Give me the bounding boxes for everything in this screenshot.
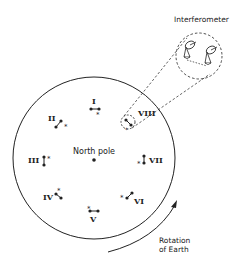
interferometer-magnified-circle <box>176 33 222 79</box>
station-iii: III * <box>28 155 51 167</box>
svg-text:*: * <box>125 126 128 133</box>
svg-text:IV: IV <box>43 192 54 202</box>
earth-rotation-interferometer-diagram: North pole Interferometer I * II * III <box>0 0 240 269</box>
interferometer-baseline <box>187 60 207 66</box>
station-vii: * VII <box>137 154 163 168</box>
svg-text:VIII: VIII <box>137 108 156 118</box>
antenna-dish-icon <box>184 39 196 58</box>
interferometer-title: Interferometer <box>174 15 230 24</box>
station-iv: IV * <box>43 187 63 202</box>
svg-text:VI: VI <box>133 196 144 206</box>
svg-text:I: I <box>92 96 96 106</box>
antenna-dish-icon <box>205 44 217 64</box>
station-i: I * <box>89 96 100 119</box>
svg-text:VII: VII <box>148 155 163 165</box>
magnifier-line-bottom <box>132 74 210 128</box>
rotation-arrowhead-icon <box>171 200 177 208</box>
station-ii: II * <box>48 113 68 131</box>
station-vi: * VI <box>120 191 144 206</box>
north-pole-dot <box>92 158 96 162</box>
svg-text:*: * <box>64 123 68 131</box>
north-pole-label: North pole <box>73 147 115 156</box>
svg-text:*: * <box>47 155 51 163</box>
station-viii: VIII * <box>124 108 155 133</box>
svg-text:V: V <box>89 214 97 224</box>
svg-text:*: * <box>57 187 61 195</box>
svg-text:*: * <box>120 194 124 202</box>
station-v: * V <box>87 205 100 224</box>
svg-text:II: II <box>48 113 56 123</box>
svg-text:*: * <box>96 111 100 119</box>
magnifier-line-top <box>124 38 187 116</box>
svg-text:III: III <box>28 155 39 165</box>
rotation-label-line2: of Earth <box>159 245 189 254</box>
rotation-label-line1: Rotation <box>159 236 191 245</box>
svg-text:*: * <box>137 160 141 168</box>
